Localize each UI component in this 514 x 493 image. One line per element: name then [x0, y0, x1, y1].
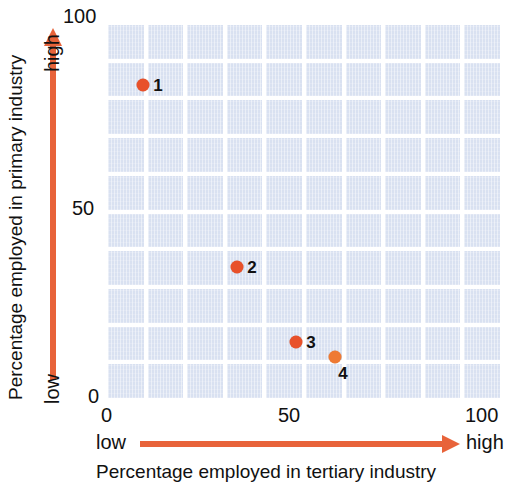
grid-cell [108, 289, 144, 323]
grid-cell [306, 138, 342, 172]
grid-cell [425, 100, 461, 134]
plot-grid [108, 25, 500, 398]
grid-cell [148, 214, 184, 248]
grid-cell [425, 364, 461, 398]
grid-cell [464, 289, 500, 323]
data-point-3[interactable] [290, 336, 303, 349]
grid-cell [108, 176, 144, 210]
grid-cell [266, 63, 302, 97]
grid-cell [227, 289, 263, 323]
data-point-2[interactable] [231, 261, 244, 274]
grid-cell [187, 25, 223, 59]
grid-cell [464, 25, 500, 59]
y-axis-low-label: low [42, 374, 62, 404]
grid-cell [148, 251, 184, 285]
grid-cell [385, 364, 421, 398]
grid-cell [346, 364, 382, 398]
grid-cell [187, 289, 223, 323]
grid-cell [108, 327, 144, 361]
grid-cell [108, 364, 144, 398]
x-axis-low-label: low [96, 432, 126, 452]
grid-cell [385, 327, 421, 361]
grid-cell [385, 63, 421, 97]
y-axis-direction-arrow-icon [44, 28, 62, 380]
y-axis-tick-50: 50 [72, 198, 94, 218]
grid-cell [464, 138, 500, 172]
x-arrow-shaft-icon [140, 441, 446, 447]
grid-cell [266, 25, 302, 59]
x-arrow-head-icon [442, 435, 460, 453]
grid-cell [187, 364, 223, 398]
grid-cell [148, 176, 184, 210]
grid-cell [227, 327, 263, 361]
grid-cell [266, 138, 302, 172]
grid-cell [346, 214, 382, 248]
grid-cell [425, 214, 461, 248]
grid-cell [346, 138, 382, 172]
grid-cell [227, 63, 263, 97]
grid-cell [108, 251, 144, 285]
grid-cell [187, 251, 223, 285]
grid-cell [306, 364, 342, 398]
grid-cell [108, 138, 144, 172]
grid-cell [425, 251, 461, 285]
grid-cell [108, 25, 144, 59]
y-axis-title: Percentage employed in primary industry [6, 55, 25, 400]
grid-cell [227, 100, 263, 134]
grid-cell [227, 25, 263, 59]
grid-cell [425, 138, 461, 172]
grid-cell [425, 289, 461, 323]
grid-cell [187, 176, 223, 210]
grid-cell [187, 138, 223, 172]
grid-cell [148, 138, 184, 172]
grid-cell [385, 25, 421, 59]
grid-cell [306, 25, 342, 59]
grid-cell [385, 289, 421, 323]
grid-cell [346, 63, 382, 97]
grid-cell [306, 176, 342, 210]
grid-cell [266, 289, 302, 323]
grid-cell [306, 100, 342, 134]
grid-cell [187, 63, 223, 97]
y-axis-tick-100: 100 [63, 6, 96, 26]
grid-cell [346, 327, 382, 361]
grid-cell [346, 25, 382, 59]
grid-cell [346, 289, 382, 323]
grid-cell [187, 327, 223, 361]
grid-cell [266, 100, 302, 134]
grid-cell [187, 100, 223, 134]
grid-cell [187, 214, 223, 248]
data-point-label-4: 4 [338, 365, 347, 382]
grid-cell [148, 289, 184, 323]
y-axis-high-label: high [42, 34, 62, 72]
grid-cell [464, 327, 500, 361]
grid-cell [464, 100, 500, 134]
y-arrow-shaft-icon [50, 42, 56, 380]
data-point-label-1: 1 [153, 77, 162, 94]
grid-cell [385, 100, 421, 134]
data-point-4[interactable] [329, 350, 342, 363]
grid-cell [346, 251, 382, 285]
grid-cell [385, 251, 421, 285]
data-point-label-2: 2 [247, 259, 256, 276]
grid-cell [464, 176, 500, 210]
grid-cell [266, 364, 302, 398]
grid-cell [227, 364, 263, 398]
grid-cell [306, 289, 342, 323]
grid-cell [306, 214, 342, 248]
data-point-1[interactable] [137, 78, 150, 91]
x-axis-high-label: high [466, 432, 504, 452]
grid-cell [385, 138, 421, 172]
grid-cell [346, 100, 382, 134]
grid-cell [346, 176, 382, 210]
grid-cell [464, 251, 500, 285]
grid-cell [148, 25, 184, 59]
x-axis-tick-50: 50 [278, 405, 300, 425]
x-axis-title: Percentage employed in tertiary industry [96, 462, 436, 481]
grid-cell [425, 176, 461, 210]
data-point-label-3: 3 [306, 334, 315, 351]
x-axis-tick-100: 100 [465, 405, 498, 425]
grid-cell [227, 138, 263, 172]
grid-cell [108, 214, 144, 248]
grid-cell [464, 214, 500, 248]
